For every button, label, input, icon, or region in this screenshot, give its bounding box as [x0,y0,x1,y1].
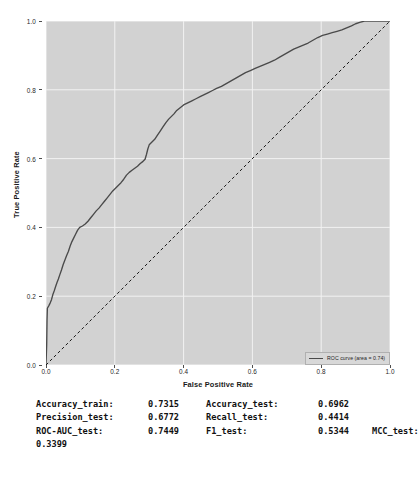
metrics-summary: Accuracy_train:0.7315Accuracy_test:0.696… [0,398,413,452]
y-axis-label: True Positive Rate [12,125,21,245]
metric-value: 0.5344 [318,425,349,438]
metric-value: 0.3399 [36,438,67,451]
x-tick-mark [114,365,115,368]
x-tick-mark [183,365,184,368]
y-tick-label: 0.8 [12,90,36,97]
metrics-row: Precision_test:0.6772Recall_test:0.4414 [0,411,413,424]
chance-diagonal-line [46,21,390,365]
y-tick-mark [39,365,42,366]
metrics-row: ROC-AUC_test:0.7449F1_test:0.5344MCC_tes… [0,425,413,438]
y-tick-mark [39,21,42,22]
metric-name: ROC-AUC_test: [36,425,103,438]
x-tick-label: 0.4 [179,368,188,375]
y-tick-label: 1.0 [12,21,36,28]
chart-legend: ROC curve (area = 0.74) [305,352,390,365]
x-tick-mark [390,365,391,368]
metric-name: MCC_test: [372,425,419,438]
x-tick-label: 0.8 [317,368,326,375]
y-tick-mark [39,89,42,90]
legend-line-swatch [309,358,323,359]
roc-figure: 0.00.20.40.60.81.0 0.00.20.40.60.81.0 Fa… [0,0,413,396]
metric-name: Recall_test: [206,411,268,424]
metric-name: F1_test: [206,425,247,438]
y-tick-mark [39,158,42,159]
y-tick-mark [39,296,42,297]
plot-canvas [46,21,390,365]
metric-value: 0.6772 [148,411,179,424]
x-axis-label: False Positive Rate [46,380,390,389]
metric-value: 0.7315 [148,398,179,411]
metric-name: Accuracy_train: [36,398,114,411]
x-axis-ticks: 0.00.20.40.60.81.0 [46,368,390,380]
y-tick-label: 0.0 [12,365,36,372]
y-tick-label: 0.2 [12,296,36,303]
x-tick-mark [252,365,253,368]
metrics-row: 0.3399 [0,438,413,451]
plot-panel [46,21,390,365]
x-tick-label: 0.2 [110,368,119,375]
x-tick-label: 0.0 [41,368,50,375]
metrics-row: Accuracy_train:0.7315Accuracy_test:0.696… [0,398,413,411]
metric-value: 0.7449 [148,425,179,438]
x-tick-label: 0.6 [248,368,257,375]
x-tick-label: 1.0 [385,368,394,375]
metric-name: Accuracy_test: [206,398,278,411]
metric-value: 0.4414 [318,411,349,424]
x-tick-mark [46,365,47,368]
y-tick-mark [39,227,42,228]
x-tick-mark [321,365,322,368]
metric-name: Precision_test: [36,411,114,424]
legend-label: ROC curve (area = 0.74) [327,355,385,361]
metric-value: 0.6962 [318,398,349,411]
